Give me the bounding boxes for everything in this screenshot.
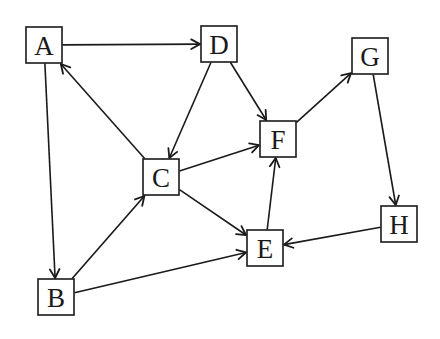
edge-a-to-b [45,64,60,279]
edges [45,39,399,292]
edge-c-to-e [180,190,247,235]
node-label: F [270,125,285,155]
edge-line [61,64,145,159]
edge-e-to-f [267,158,279,230]
edge-b-to-e [75,250,247,293]
edge-h-to-e [284,227,381,247]
edge-a-to-d [63,39,201,49]
edge-c-to-a [61,64,145,159]
edge-g-to-h [373,75,399,206]
node-b: B [38,279,74,315]
arrowhead-icon [236,226,246,235]
node-d: D [201,26,237,62]
edge-f-to-g [297,73,352,122]
edge-line [267,158,276,230]
edge-line [284,227,381,244]
nodes: ABCDEFGH [26,26,417,315]
node-label: E [257,234,274,264]
edge-line [169,63,211,159]
node-f: F [260,121,296,157]
node-label: A [34,31,54,61]
node-label: H [389,210,409,240]
edge-line [180,145,260,171]
edge-line [180,190,247,235]
edge-b-to-c [72,196,144,279]
edge-line [75,252,247,292]
node-label: G [360,42,380,72]
node-a: A [26,27,62,63]
node-e: E [247,230,283,266]
node-label: B [47,283,65,313]
node-c: C [143,159,179,195]
edge-line [63,44,201,45]
edge-line [72,196,144,279]
edge-d-to-f [230,63,266,121]
edge-c-to-f [180,143,260,171]
edge-line [45,64,55,279]
node-label: D [209,30,229,60]
directed-graph: ABCDEFGH [0,0,440,339]
edge-line [230,63,266,121]
edge-line [297,73,352,122]
node-g: G [352,38,388,74]
node-label: C [152,163,170,193]
edge-d-to-c [168,63,211,159]
edge-line [373,75,396,206]
node-h: H [381,206,417,242]
